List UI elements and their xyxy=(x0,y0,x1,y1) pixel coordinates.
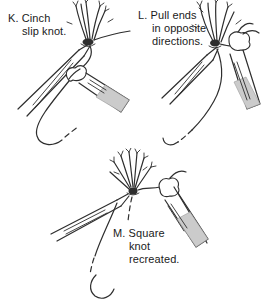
panel-l: L. Pull ends in opposite directions. xyxy=(133,0,268,155)
suture-loop xyxy=(163,49,222,145)
panel-m-illustration xyxy=(40,148,235,303)
suture-ends-tassel xyxy=(110,148,156,189)
suture-short-tail xyxy=(128,197,132,221)
slip-knot xyxy=(81,39,95,47)
suture-needle xyxy=(91,275,114,298)
grasper xyxy=(66,66,129,112)
panel-k-label: K. Cinch slip knot. xyxy=(8,12,92,38)
grasper xyxy=(229,23,260,109)
needle-driver xyxy=(162,47,218,104)
figure-canvas: K. Cinch slip knot. xyxy=(0,0,268,303)
panel-l-label: L. Pull ends in opposite directions. xyxy=(138,9,230,48)
panel-m: M. Square knot recreated. xyxy=(40,148,235,303)
suture-tail xyxy=(94,31,130,40)
panel-m-label: M. Square knot recreated. xyxy=(113,227,214,266)
panel-k: K. Cinch slip knot. xyxy=(0,0,140,150)
suture-thread xyxy=(138,187,160,190)
